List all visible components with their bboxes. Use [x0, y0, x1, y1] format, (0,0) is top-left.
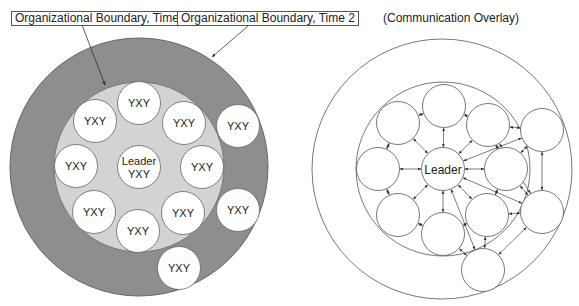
communication-arrow — [419, 114, 424, 116]
communication-arrow — [413, 185, 427, 200]
overlay-member-circle — [422, 213, 465, 256]
outer-member-circle: YXY — [217, 189, 260, 232]
overlay-member-circle — [521, 191, 564, 234]
pointer-time2 — [212, 26, 248, 57]
overlay-member-circle — [423, 85, 466, 128]
overlay-member-circle — [357, 148, 400, 191]
communication-arrow — [458, 185, 472, 199]
overlay-member-circle — [466, 194, 509, 237]
communication-arrow — [387, 189, 389, 195]
leader-circle: LeaderYXY — [118, 146, 161, 189]
overlay-title: (Communication Overlay) — [383, 11, 519, 25]
overlay-member-circle — [467, 104, 510, 147]
member-label: YXY — [227, 204, 250, 216]
member-label: YXY — [128, 97, 151, 109]
member-label: YXY — [127, 225, 150, 237]
outer-member-circle: YXY — [158, 247, 201, 290]
member-circle: YXY — [55, 145, 98, 188]
communication-arrow — [464, 115, 468, 117]
overlay-member-circle — [462, 249, 505, 292]
communication-arrow — [413, 139, 427, 154]
member-circle: YXY — [74, 100, 117, 143]
boundary-time1-label: Organizational Boundary, Time 1 — [11, 11, 193, 26]
leader-label: YXY — [128, 168, 151, 180]
boundary-time2-label: Organizational Boundary, Time 2 — [177, 11, 359, 26]
overlay-leader-label: Leader — [424, 163, 461, 177]
member-label: YXY — [172, 207, 195, 219]
member-circle: YXY — [117, 210, 160, 253]
overlay-member-circle — [521, 109, 564, 152]
outer-member-circle: YXY — [217, 105, 260, 148]
member-circle: YXY — [118, 82, 161, 125]
member-label: YXY — [65, 160, 88, 172]
member-label: YXY — [84, 115, 107, 127]
left-diagram: YXYYXYYXYYXYYXYYXYYXYYXYYXYYXYYXYLeaderY… — [10, 25, 268, 296]
member-circle: YXY — [181, 146, 224, 189]
member-circle: YXY — [163, 102, 206, 145]
diagram-canvas: YXYYXYYXYYXYYXYYXYYXYYXYYXYYXYYXYLeaderY… — [0, 0, 579, 306]
communication-arrow — [485, 237, 486, 248]
communication-arrow — [499, 227, 527, 254]
communication-arrow — [418, 224, 422, 226]
member-label: YXY — [227, 120, 250, 132]
communication-arrow — [510, 127, 520, 128]
overlay-member-circle — [377, 102, 420, 145]
leader-label: Leader — [122, 155, 157, 167]
overlay-member-circle — [377, 194, 420, 237]
member-label: YXY — [83, 206, 106, 218]
member-circle: YXY — [162, 192, 205, 235]
communication-arrow — [521, 146, 527, 153]
communication-arrow — [509, 213, 520, 214]
communication-arrow — [459, 140, 473, 153]
member-label: YXY — [168, 262, 191, 274]
member-label: YXY — [173, 117, 196, 129]
communication-arrow — [387, 143, 389, 149]
right-diagram: Leader — [312, 39, 572, 299]
member-label: YXY — [191, 161, 214, 173]
member-circle: YXY — [73, 191, 116, 234]
overlay-member-circle — [485, 148, 528, 191]
